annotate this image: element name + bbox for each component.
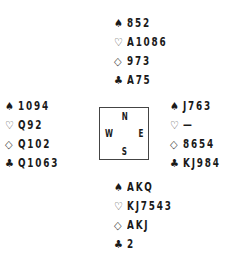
- heart-icon: ♡: [5, 116, 18, 135]
- west-clubs-cards: Q1063: [18, 154, 59, 173]
- club-icon: ♣: [114, 71, 127, 90]
- compass-south-label: S: [122, 146, 127, 157]
- south-clubs-cards: 2: [127, 235, 135, 254]
- diamond-icon: ◇: [5, 135, 18, 154]
- compass-east-label: E: [138, 128, 143, 139]
- south-hand: ♠AKQ ♡KJ7543 ◇AKJ ♣2: [114, 178, 183, 254]
- west-spades: ♠1094: [5, 97, 68, 116]
- north-clubs-cards: A75: [127, 71, 152, 90]
- north-spades-cards: 852: [127, 14, 151, 33]
- spade-icon: ♠: [114, 14, 127, 33]
- heart-icon: ♡: [170, 116, 183, 135]
- south-diamonds: ◇AKJ: [114, 216, 183, 235]
- diamond-icon: ◇: [114, 216, 127, 235]
- north-diamonds: ◇973: [114, 52, 176, 71]
- west-diamonds-cards: Q102: [18, 135, 51, 154]
- club-icon: ♣: [114, 235, 127, 254]
- east-diamonds: ◇8654: [170, 135, 229, 154]
- west-hand: ♠1094 ♡Q92 ◇Q102 ♣Q1063: [5, 97, 68, 173]
- south-spades-cards: AKQ: [127, 178, 154, 197]
- west-diamonds: ◇Q102: [5, 135, 68, 154]
- heart-icon: ♡: [114, 33, 127, 52]
- west-hearts-cards: Q92: [18, 116, 43, 135]
- west-clubs: ♣Q1063: [5, 154, 68, 173]
- diamond-icon: ◇: [170, 135, 183, 154]
- east-diamonds-cards: 8654: [183, 135, 215, 154]
- south-hearts-cards: KJ7543: [127, 197, 173, 216]
- north-hand: ♠852 ♡A1086 ◇973 ♣A75: [114, 14, 176, 90]
- east-hand: ♠J763 ♡— ◇8654 ♣KJ984: [170, 97, 229, 173]
- east-clubs-cards: KJ984: [183, 154, 221, 173]
- club-icon: ♣: [5, 154, 18, 173]
- south-spades: ♠AKQ: [114, 178, 183, 197]
- spade-icon: ♠: [170, 97, 183, 116]
- north-spades: ♠852: [114, 14, 176, 33]
- west-hearts: ♡Q92: [5, 116, 68, 135]
- east-spades-cards: J763: [183, 97, 212, 116]
- south-clubs: ♣2: [114, 235, 183, 254]
- north-clubs: ♣A75: [114, 71, 176, 90]
- east-hearts-cards: —: [183, 116, 194, 135]
- east-hearts: ♡—: [170, 116, 229, 135]
- east-spades: ♠J763: [170, 97, 229, 116]
- heart-icon: ♡: [114, 197, 127, 216]
- compass-box: N W E S: [99, 107, 149, 160]
- south-hearts: ♡KJ7543: [114, 197, 183, 216]
- north-hearts: ♡A1086: [114, 33, 176, 52]
- south-diamonds-cards: AKJ: [127, 216, 149, 235]
- spade-icon: ♠: [114, 178, 127, 197]
- west-spades-cards: 1094: [18, 97, 50, 116]
- east-clubs: ♣KJ984: [170, 154, 229, 173]
- spade-icon: ♠: [5, 97, 18, 116]
- compass-north-label: N: [122, 111, 128, 122]
- compass-west-label: W: [105, 128, 113, 139]
- club-icon: ♣: [170, 154, 183, 173]
- diamond-icon: ◇: [114, 52, 127, 71]
- north-hearts-cards: A1086: [127, 33, 168, 52]
- north-diamonds-cards: 973: [127, 52, 151, 71]
